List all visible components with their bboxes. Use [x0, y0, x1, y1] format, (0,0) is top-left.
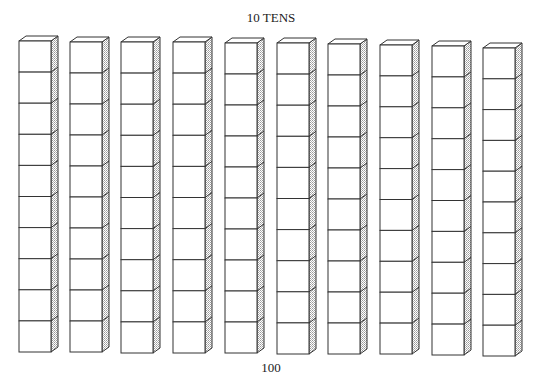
unit-cube — [70, 42, 102, 73]
unit-cube — [483, 171, 515, 202]
unit-cube — [121, 166, 153, 197]
unit-cube — [19, 321, 51, 352]
unit-cube — [121, 42, 153, 73]
unit-cube — [173, 291, 205, 322]
unit-cube — [277, 167, 309, 198]
unit-cube — [483, 79, 515, 110]
unit-cube — [19, 259, 51, 290]
unit-cube — [70, 166, 102, 197]
unit-cube — [121, 135, 153, 166]
unit-cube — [70, 104, 102, 135]
unit-cube — [483, 202, 515, 233]
unit-cube — [19, 165, 51, 196]
unit-cube — [121, 291, 153, 322]
ten-rod — [225, 38, 264, 353]
unit-cube — [483, 325, 515, 356]
unit-cube — [432, 231, 464, 262]
unit-cube — [483, 264, 515, 295]
unit-cube — [173, 198, 205, 229]
unit-cube — [328, 261, 360, 292]
unit-cube — [380, 323, 412, 354]
unit-cube — [328, 168, 360, 199]
unit-cube — [432, 108, 464, 139]
unit-cube — [121, 198, 153, 229]
unit-cube — [328, 230, 360, 261]
unit-cube — [483, 140, 515, 171]
unit-cube — [225, 322, 257, 353]
unit-cube — [328, 44, 360, 75]
unit-cube — [483, 294, 515, 325]
unit-cube — [328, 199, 360, 230]
unit-cube — [70, 228, 102, 259]
unit-cube — [432, 77, 464, 108]
unit-cube — [173, 73, 205, 104]
unit-cube — [277, 261, 309, 292]
unit-cube — [432, 46, 464, 77]
unit-cube — [277, 230, 309, 261]
unit-cube — [70, 197, 102, 228]
unit-cube — [328, 106, 360, 137]
unit-cube — [173, 135, 205, 166]
unit-cube — [121, 73, 153, 104]
unit-cube — [19, 228, 51, 259]
unit-cube — [483, 233, 515, 264]
unit-cube — [432, 170, 464, 201]
unit-cube — [328, 137, 360, 168]
ten-rod — [277, 38, 316, 354]
unit-cube — [70, 73, 102, 104]
unit-cube — [328, 323, 360, 354]
unit-cube — [70, 259, 102, 290]
unit-cube — [225, 291, 257, 322]
unit-cube — [483, 110, 515, 141]
unit-cube — [483, 48, 515, 79]
ten-rod — [483, 43, 522, 356]
unit-cube — [19, 72, 51, 103]
ten-rod — [70, 37, 109, 352]
unit-cube — [121, 322, 153, 353]
unit-cube — [277, 105, 309, 136]
unit-cube — [380, 200, 412, 231]
unit-cube — [173, 166, 205, 197]
unit-cube — [225, 105, 257, 136]
unit-cube — [380, 76, 412, 107]
unit-cube — [380, 107, 412, 138]
unit-cube — [277, 199, 309, 230]
unit-cube — [380, 230, 412, 261]
unit-cube — [225, 229, 257, 260]
unit-cube — [173, 104, 205, 135]
unit-cube — [19, 290, 51, 321]
unit-cube — [173, 260, 205, 291]
unit-cube — [173, 322, 205, 353]
unit-cube — [432, 324, 464, 355]
unit-cube — [225, 260, 257, 291]
ten-rod — [19, 36, 58, 352]
unit-cube — [121, 104, 153, 135]
unit-cube — [225, 198, 257, 229]
unit-cube — [328, 292, 360, 323]
unit-cube — [380, 261, 412, 292]
unit-cube — [432, 139, 464, 170]
unit-cube — [277, 43, 309, 74]
unit-cube — [328, 75, 360, 106]
unit-cube — [173, 42, 205, 73]
unit-cube — [19, 41, 51, 72]
unit-cube — [432, 201, 464, 232]
ten-rod — [173, 37, 212, 353]
unit-cube — [277, 323, 309, 354]
unit-cube — [70, 321, 102, 352]
unit-cube — [225, 136, 257, 167]
unit-cube — [380, 169, 412, 200]
unit-cube — [70, 135, 102, 166]
unit-cube — [121, 229, 153, 260]
unit-cube — [380, 292, 412, 323]
base-ten-rods — [0, 0, 542, 386]
unit-cube — [121, 260, 153, 291]
total-value: 100 — [0, 360, 542, 376]
unit-cube — [277, 74, 309, 105]
unit-cube — [19, 197, 51, 228]
ten-rod — [121, 37, 160, 353]
unit-cube — [380, 138, 412, 169]
unit-cube — [19, 134, 51, 165]
ten-rod — [432, 41, 471, 355]
unit-cube — [225, 167, 257, 198]
